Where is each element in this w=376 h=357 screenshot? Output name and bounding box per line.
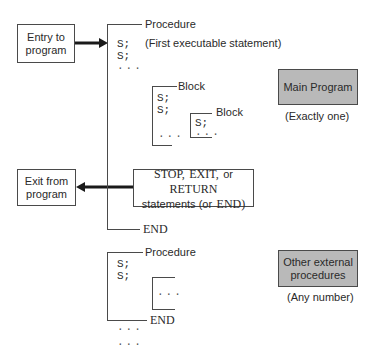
kw-return: RETURN <box>170 182 218 196</box>
kw-end: END) <box>217 197 246 211</box>
other-procedures-line2: procedures <box>290 269 345 282</box>
kw-exit: EXIT, <box>189 167 218 181</box>
other-procedures-box: Other external procedures <box>278 250 358 287</box>
entry-to-program-box: Entry to program <box>17 24 75 63</box>
other-inner-bracket-top <box>152 277 175 278</box>
main-end-label: END <box>143 222 168 237</box>
other-procedure-label: Procedure <box>145 246 196 259</box>
other-inner-bracket-bottom <box>152 309 175 310</box>
trailing-ellipsis-1: ... <box>117 321 143 333</box>
main-program-caption: (Exactly one) <box>285 110 349 123</box>
exit-arrow-head <box>76 182 85 192</box>
outer-block-bracket-bottom <box>152 145 172 146</box>
outer-block-stmt-1: S; <box>157 92 170 104</box>
exit-statements-line2: statements (or END) <box>142 196 245 211</box>
outer-block-bracket-top <box>152 86 177 87</box>
exit-line1: Exit from <box>25 175 68 188</box>
main-procedure-bracket-left <box>107 24 108 230</box>
outer-block-ellipsis: ... <box>158 128 184 140</box>
other-procedures-caption: (Any number) <box>287 291 354 304</box>
outer-block-bracket-left <box>152 86 153 146</box>
main-program-box: Main Program <box>278 69 358 105</box>
main-program-label: Main Program <box>283 81 352 94</box>
other-procedure-bracket-top <box>107 252 143 253</box>
statements-text: statements (or <box>142 198 212 210</box>
other-inner-bracket-left <box>152 277 153 310</box>
outer-block-label: Block <box>178 80 205 93</box>
inner-block-ellipsis: ... <box>195 126 221 138</box>
entry-line1: Entry to <box>27 31 65 44</box>
other-stmt-2: S; <box>117 270 130 282</box>
outer-block-stmt-2: S; <box>157 104 170 116</box>
inner-block-bracket-top <box>190 113 212 114</box>
main-procedure-bracket-top <box>107 24 142 25</box>
or-text: or <box>223 168 233 180</box>
main-stmt-1: S; <box>117 38 130 50</box>
other-inner-ellipsis: ... <box>157 286 183 298</box>
exit-line2: program <box>26 188 67 201</box>
trailing-ellipsis-2: ... <box>117 336 143 348</box>
main-procedure-bracket-bottom <box>107 229 140 230</box>
entry-line2: program <box>26 44 67 57</box>
main-stmt-1-note: (First executable statement) <box>145 37 281 50</box>
kw-stop: STOP, <box>154 167 185 181</box>
other-stmt-1: S; <box>117 258 130 270</box>
exit-from-program-box: Exit from program <box>17 169 76 206</box>
inner-block-label: Block <box>216 106 243 119</box>
exit-statements-box: STOP, EXIT, or RETURN statements (or END… <box>133 169 254 207</box>
other-end-label: END <box>150 313 175 328</box>
exit-statements-line1: STOP, EXIT, or RETURN <box>134 166 253 196</box>
other-procedure-bracket-left <box>107 252 108 321</box>
inner-block-bracket-left <box>190 113 191 138</box>
main-ellipsis: ... <box>117 60 143 72</box>
other-procedures-line1: Other external <box>283 256 353 269</box>
main-procedure-label: Procedure <box>145 18 196 31</box>
